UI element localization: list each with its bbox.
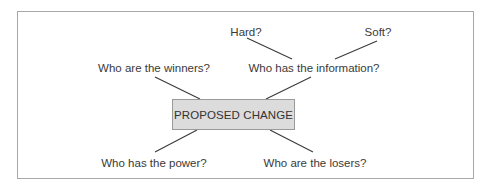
edge-winners — [155, 77, 200, 99]
edge-power — [155, 130, 197, 152]
node-losers: Who are the losers? — [264, 156, 367, 170]
edge-soft — [335, 41, 377, 59]
edge-hard — [247, 38, 292, 59]
edge-losers — [270, 130, 313, 152]
node-soft: Soft? — [365, 25, 392, 39]
center-node-label: PROPOSED CHANGE — [174, 109, 293, 121]
node-information: Who has the information? — [248, 61, 379, 75]
node-power: Who has the power? — [101, 156, 206, 170]
edge-information — [266, 77, 311, 99]
center-node-proposed-change: PROPOSED CHANGE — [172, 99, 295, 130]
node-winners: Who are the winners? — [98, 61, 210, 75]
node-hard: Hard? — [230, 25, 261, 39]
